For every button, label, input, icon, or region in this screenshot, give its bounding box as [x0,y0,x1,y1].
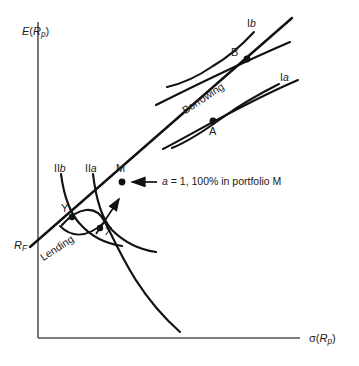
point-markers-group [69,56,251,232]
point-label-A: A [209,126,216,137]
capital-market-line [30,18,292,247]
point-label-B: B [231,47,238,58]
y-axis-label: E(Rp) [22,26,49,39]
x-axis-label: σ(Rp) [309,333,336,346]
cml-indifference-curve-figure: E(Rp) σ(Rp) RF Y X M A B IIb IIa Ia Ib L… [0,0,359,366]
indifference-curve-label-IIa: IIa [85,163,97,174]
risk-free-rate-label: RF [14,240,27,253]
point-label-M: M [116,163,125,174]
indifference-curve-label-IIa-suffix: a [91,162,97,174]
risk-free-rate-var: R [14,239,22,251]
y-axis-label-var: R [33,25,41,37]
efficient-frontier-group [60,210,180,332]
tangent-lines-group [156,42,298,149]
indifference-curve-label-Ib-suffix: b [250,17,256,29]
capital-market-line-group [30,18,292,247]
indifference-curve-label-IIb: IIb [54,163,66,174]
indifference-curve-label-Ia: Ia [280,72,289,83]
point-marker-B [244,56,251,63]
portfolio-m-annotation-rest: = 1, 100% in portfolio M [168,175,282,187]
risk-free-rate-sub: F [22,244,27,253]
x-axis-label-close: ) [332,332,336,344]
y-axis-label-close: ) [46,25,50,37]
indifference-curve-label-Ia-suffix: a [283,71,289,83]
indifference-curve-label-Ib: Ib [247,18,256,29]
point-marker-A [210,118,217,125]
x-axis-label-sigma: σ [309,332,316,344]
efficient-frontier-upper [62,210,180,332]
indifference-curve-label-IIb-suffix: b [60,162,66,174]
tangent-line-at-B [156,42,290,105]
portfolio-m-annotation-text: a = 1, 100% in portfolio M [162,176,281,187]
point-label-X: X [105,226,112,237]
point-label-Y: Y [61,203,68,214]
point-marker-Y [69,214,75,220]
point-marker-M [119,179,126,186]
